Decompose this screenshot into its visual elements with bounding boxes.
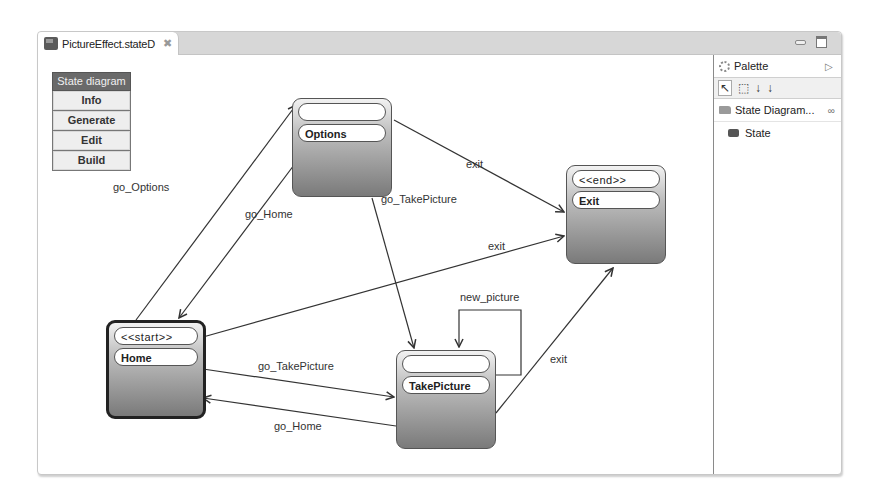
transition-go-home-from-options[interactable] — [179, 165, 294, 318]
editor-window: PictureEffect.stateD ✖ — [37, 31, 842, 475]
build-button[interactable]: Build — [52, 151, 131, 171]
label-exit-lower[interactable]: exit — [550, 353, 567, 365]
transition-go-takepicture-from-home[interactable] — [203, 369, 394, 397]
palette-drawer-state-diagram[interactable]: State Diagram... ∞ — [714, 99, 841, 122]
state-name[interactable]: TakePicture — [402, 376, 490, 394]
marquee-tool-icon[interactable]: ⬚ — [738, 81, 749, 95]
palette-item-state[interactable]: State — [714, 122, 841, 144]
menu-title: State diagram — [52, 72, 131, 91]
connection-tool-icon[interactable]: ↓ — [755, 81, 761, 95]
collapse-palette-icon[interactable]: ▷ — [825, 61, 833, 72]
drawer-label: State Diagram... — [735, 104, 814, 116]
pin-icon[interactable]: ∞ — [828, 105, 835, 116]
label-exit-upper[interactable]: exit — [466, 158, 483, 170]
label-exit-middle[interactable]: exit — [488, 240, 505, 252]
label-go-home-lower[interactable]: go_Home — [274, 420, 322, 432]
label-go-home-upper[interactable]: go_Home — [245, 208, 293, 220]
maximize-icon[interactable] — [816, 36, 827, 48]
generate-button[interactable]: Generate — [52, 111, 131, 131]
state-stereotype[interactable] — [298, 103, 386, 121]
diagram-canvas[interactable]: go_Options go_Home exit go_TakePicture e… — [38, 55, 712, 474]
palette-toolbar: ↖ ⬚ ↓ ↓ — [714, 78, 841, 99]
state-diagram-menu: State diagram Info Generate Edit Build — [52, 72, 131, 171]
tab-title: PictureEffect.stateD — [62, 38, 155, 50]
state-diagram-file-icon — [44, 37, 58, 50]
label-go-takepicture-lower[interactable]: go_TakePicture — [258, 360, 334, 372]
minimize-icon[interactable] — [795, 40, 806, 45]
window-controls — [795, 36, 827, 48]
state-name[interactable]: Options — [298, 124, 386, 142]
state-name[interactable]: Home — [114, 348, 198, 366]
close-icon[interactable]: ✖ — [163, 37, 172, 50]
info-button[interactable]: Info — [52, 91, 131, 111]
palette-panel: Palette ▷ ↖ ⬚ ↓ ↓ State Diagram... ∞ Sta… — [713, 55, 841, 474]
palette-header: Palette ▷ — [714, 55, 841, 78]
edit-button[interactable]: Edit — [52, 131, 131, 151]
state-name[interactable]: Exit — [572, 191, 660, 209]
transition-exit-from-takepicture[interactable] — [496, 268, 613, 413]
state-stereotype[interactable] — [402, 355, 490, 373]
label-new-picture[interactable]: new_picture — [460, 291, 519, 303]
state-home[interactable]: <<start>> Home — [106, 320, 206, 419]
select-tool-icon[interactable]: ↖ — [718, 80, 732, 96]
palette-icon — [719, 61, 730, 72]
state-stereotype[interactable]: <<start>> — [114, 327, 198, 345]
editor-tab-bar: PictureEffect.stateD ✖ — [38, 32, 841, 55]
state-takepicture[interactable]: TakePicture — [396, 350, 496, 449]
folder-icon — [719, 106, 731, 114]
state-stereotype[interactable]: <<end>> — [572, 170, 660, 188]
label-go-takepicture-upper[interactable]: go_TakePicture — [381, 193, 457, 205]
editor-tab[interactable]: PictureEffect.stateD ✖ — [38, 32, 179, 55]
label-go-options[interactable]: go_Options — [113, 181, 169, 193]
state-icon — [728, 129, 739, 137]
state-options[interactable]: Options — [292, 98, 392, 197]
transition-exit-from-home[interactable] — [203, 236, 564, 337]
transition-go-takepicture-from-options[interactable] — [372, 198, 414, 348]
state-exit[interactable]: <<end>> Exit — [566, 165, 666, 264]
connection-tool-2-icon[interactable]: ↓ — [767, 81, 773, 95]
palette-item-label: State — [745, 127, 771, 139]
palette-title: Palette — [734, 60, 768, 72]
